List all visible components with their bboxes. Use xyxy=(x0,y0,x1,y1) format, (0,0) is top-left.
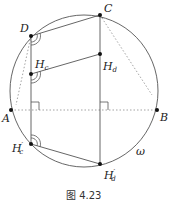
label-Hc: Hc xyxy=(34,58,49,72)
segment-CB-dotted xyxy=(100,15,152,95)
point-Hd-prime xyxy=(98,162,102,166)
geometry-figure: D C Hc Hd A B H′c H′d ω 图 4.23 xyxy=(0,0,170,204)
label-Hd-prime: H′d xyxy=(103,168,116,183)
figure-caption: 图 4.23 xyxy=(66,190,101,201)
label-omega: ω xyxy=(136,145,145,158)
points xyxy=(9,13,159,166)
label-B: B xyxy=(159,111,168,124)
label-D: D xyxy=(19,22,29,35)
point-Hc-prime xyxy=(29,142,33,146)
point-Hc xyxy=(29,72,33,76)
point-B xyxy=(155,108,159,112)
point-C xyxy=(98,13,102,17)
segment-DC xyxy=(31,15,100,36)
angle-arcs xyxy=(31,33,41,147)
label-Hd: Hd xyxy=(102,60,118,74)
label-Hc-prime: H′c xyxy=(11,141,24,156)
point-D xyxy=(29,34,33,38)
label-C: C xyxy=(104,2,113,15)
right-angle-mark-right xyxy=(100,102,108,110)
right-angle-mark-left xyxy=(31,102,39,110)
label-A: A xyxy=(1,112,10,125)
point-Hd xyxy=(98,52,102,56)
segment-Hc-prime-Hd-prime xyxy=(31,144,100,164)
